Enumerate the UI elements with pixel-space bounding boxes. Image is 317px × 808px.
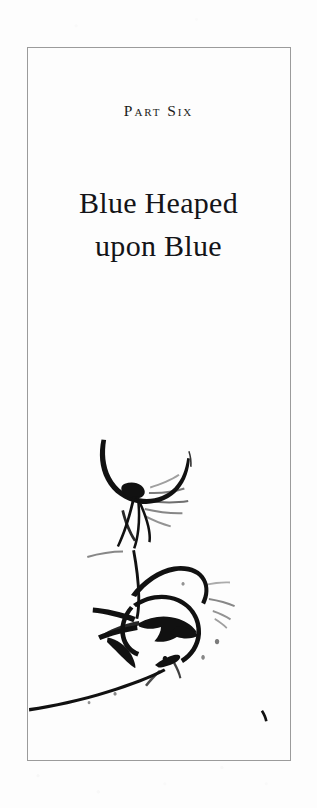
ink-wisp-left-1: [87, 550, 123, 558]
ink-upper-arc: [100, 440, 190, 504]
ink-speck-trail-a: [163, 656, 168, 662]
ink-speck-lower-right: [261, 710, 268, 722]
ink-flick-r3: [145, 508, 183, 514]
ink-link-stroke: [132, 550, 140, 619]
ink-strokes-group: [29, 440, 268, 722]
part-number-label: Part Six: [0, 102, 317, 120]
ink-flick-swirl-4: [205, 582, 230, 586]
ink-flick-r5: [150, 474, 180, 488]
ink-speck-trail-b: [113, 692, 116, 696]
ink-flick-swirl-1: [209, 598, 235, 607]
page-title: Blue Heaped upon Blue: [0, 181, 317, 267]
ink-illustration-svg: [27, 420, 291, 740]
ink-speck-swirl-c: [181, 582, 184, 586]
ink-speck-trail-c: [88, 701, 91, 704]
ink-speck-swirl-b: [201, 655, 205, 660]
ink-speck-swirl-a: [215, 639, 219, 644]
ink-flick-r1: [149, 488, 185, 495]
ink-flick-swirl-3: [214, 618, 227, 629]
page-title-line-2: upon Blue: [0, 224, 317, 267]
page-title-line-1: Blue Heaped: [0, 181, 317, 224]
ink-tail-below-swirl: [173, 662, 181, 679]
ink-trailing-stroke: [29, 668, 166, 711]
sumi-e-ink-brush-drawing: [27, 420, 291, 740]
book-part-title-page: Part Six Blue Heaped upon Blue: [0, 0, 317, 808]
